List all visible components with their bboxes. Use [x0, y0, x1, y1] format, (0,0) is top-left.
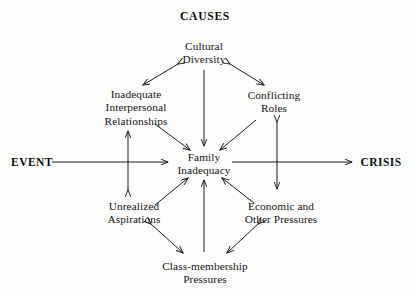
node-line-1: Family: [177, 151, 230, 164]
causal-diagram: CAUSES EVENT CRISIS Cultural Diversity I…: [0, 0, 410, 296]
diagram-heading: CAUSES: [180, 10, 230, 23]
node-line-1: Class-membership: [162, 260, 248, 273]
node-line-2: Interpersonal: [105, 101, 168, 114]
node-line-3: Relationships: [105, 115, 168, 128]
node-line-2: Pressures: [162, 273, 248, 286]
node-unrealized-aspirations: Unrealized Aspirations: [107, 200, 160, 227]
node-conflicting-roles: Conflicting Roles: [248, 89, 301, 116]
node-line-1: Unrealized: [107, 200, 160, 213]
node-inadequate-interpersonal-relationships: Inadequate Interpersonal Relationships: [105, 88, 168, 128]
node-line-1: Economic and: [245, 200, 318, 213]
node-economic-and-other-pressures: Economic and Other Pressures: [245, 200, 318, 227]
connector-conflicting-roles-to-center: [220, 120, 256, 150]
axis-start-label: EVENT: [11, 156, 53, 168]
node-line-2: Diversity: [183, 53, 226, 66]
node-family-inadequacy: Family Inadequacy: [177, 151, 230, 178]
axis-end-label: CRISIS: [360, 156, 401, 168]
connector-unrealized-class-membership: [151, 224, 183, 253]
connector-economic-class-membership: [227, 224, 258, 253]
node-line-2: Inadequacy: [177, 164, 230, 177]
connector-cultural-diversity-conflicting-roles: [230, 64, 264, 85]
node-line-2: Other Pressures: [245, 213, 318, 226]
node-line-1: Cultural: [183, 40, 226, 53]
node-line-2: Aspirations: [107, 213, 160, 226]
node-cultural-diversity: Cultural Diversity: [183, 40, 226, 67]
connector-cultural-diversity-inadequate: [143, 64, 178, 85]
node-line-2: Roles: [248, 102, 301, 115]
node-line-1: Inadequate: [105, 88, 168, 101]
node-class-membership-pressures: Class-membership Pressures: [162, 260, 248, 287]
node-line-1: Conflicting: [248, 89, 301, 102]
